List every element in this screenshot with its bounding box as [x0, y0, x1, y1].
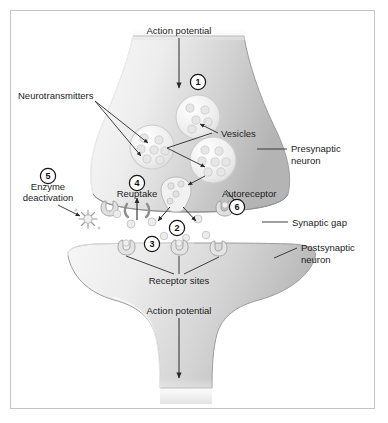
label-postsynaptic-neuron-line2: neuron: [301, 254, 331, 265]
step-marker-6[interactable]: 6: [229, 199, 244, 214]
step-marker-1-label: 1: [195, 77, 200, 87]
label-neurotransmitters: Neurotransmitters: [18, 90, 94, 101]
step-marker-5-label: 5: [45, 171, 50, 181]
synaptic-gap-transmitters: [113, 210, 210, 241]
label-autoreceptor: Autoreceptor: [222, 188, 276, 199]
step-marker-4-label: 4: [134, 178, 139, 188]
label-presynaptic-neuron-line1: Presynaptic: [291, 143, 341, 154]
vesicle-lower: [190, 137, 236, 183]
label-action-potential-top: Action potential: [147, 25, 212, 36]
label-receptor-sites: Receptor sites: [149, 275, 210, 286]
step-marker-3[interactable]: 3: [144, 236, 159, 251]
diagram-canvas: Action potential Neurotransmitters Vesic…: [0, 0, 388, 423]
step-marker-5[interactable]: 5: [40, 168, 55, 183]
label-vesicles: Vesicles: [221, 128, 256, 139]
label-action-potential-bottom: Action potential: [147, 305, 212, 316]
step-marker-3-label: 3: [149, 239, 154, 249]
enzyme-deactivation-burst-icon: [75, 209, 101, 230]
step-marker-6-label: 6: [234, 202, 239, 212]
label-presynaptic-neuron-line2: neuron: [291, 155, 321, 166]
postsynaptic-neuron: [68, 243, 316, 404]
label-postsynaptic-neuron-line1: Postsynaptic: [301, 242, 355, 253]
vesicle-middle: [130, 125, 174, 169]
step-marker-1[interactable]: 1: [190, 74, 205, 89]
label-enzyme-line2: deactivation: [23, 192, 74, 203]
step-marker-4[interactable]: 4: [129, 175, 144, 190]
label-synaptic-gap: Synaptic gap: [292, 217, 347, 228]
vesicle-upper: [176, 95, 220, 139]
step-marker-2[interactable]: 2: [169, 220, 184, 235]
step-marker-2-label: 2: [174, 223, 179, 233]
synapse-illustration: Action potential Neurotransmitters Vesic…: [0, 0, 388, 423]
